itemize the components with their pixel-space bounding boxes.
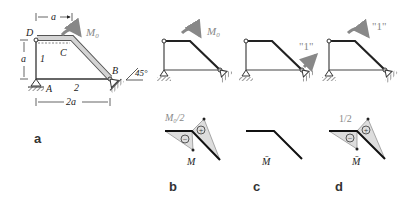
unit-moment-label: "1" bbox=[372, 20, 386, 32]
angle-label: 45° bbox=[135, 68, 148, 78]
member-1-label: 1 bbox=[40, 53, 45, 64]
value-label: M₀/2 bbox=[164, 112, 185, 123]
panel-d-structure: "1" bbox=[322, 20, 398, 83]
panel-label-d: d bbox=[335, 179, 343, 194]
beam-dcb bbox=[37, 38, 110, 78]
panel-a: 45° M0 D C A B 1 2 a a 2a a bbox=[20, 11, 148, 146]
negative-sign: − bbox=[348, 134, 353, 143]
moment-arrow-icon bbox=[62, 30, 80, 36]
negative-sign: − bbox=[183, 135, 188, 144]
panel-d-moment-diagram: − + 1/2 M̄ d bbox=[329, 113, 385, 194]
value-label: 1/2 bbox=[339, 113, 352, 124]
panel-c-structure: "1" bbox=[239, 39, 316, 83]
positive-sign: + bbox=[199, 126, 204, 135]
unit-force-arrow-icon bbox=[304, 55, 316, 67]
diagram-name: M̄ bbox=[351, 156, 361, 167]
node-d-label: D bbox=[25, 27, 34, 38]
node-b-label: B bbox=[112, 65, 118, 76]
diagram-name: M̄ bbox=[261, 156, 271, 167]
hinge-d bbox=[34, 38, 38, 42]
unit-load-label: "1" bbox=[299, 40, 313, 52]
node-c-label: C bbox=[60, 47, 67, 58]
panel-label-c: c bbox=[253, 179, 260, 194]
moment-label-b: M0 bbox=[206, 25, 220, 39]
unit-moment-arrow-icon bbox=[348, 29, 368, 36]
node-a-label: A bbox=[45, 83, 53, 94]
panel-b-structure: M0 bbox=[157, 25, 233, 83]
moment-label: M0 bbox=[85, 26, 99, 40]
moment-arrow-icon bbox=[182, 29, 200, 36]
member-2-label: 2 bbox=[74, 82, 79, 93]
diagram-name: M bbox=[186, 156, 196, 167]
dim-left-label: a bbox=[21, 53, 26, 64]
panel-label-a: a bbox=[34, 131, 42, 146]
pin-support-a bbox=[28, 79, 44, 91]
dim-bottom-label: 2a bbox=[66, 96, 76, 107]
panel-c-moment-diagram: M̄ c bbox=[246, 131, 302, 194]
panel-label-b: b bbox=[169, 179, 177, 194]
panel-b-moment-diagram: − + M₀/2 M b bbox=[164, 112, 220, 194]
positive-sign: + bbox=[364, 126, 369, 135]
dim-top-label: a bbox=[51, 11, 56, 22]
